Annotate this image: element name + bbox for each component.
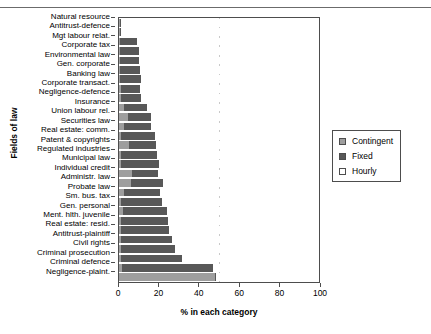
x-tick-mark [118,283,119,287]
x-tick-mark [198,283,199,287]
y-tick-mark [111,73,115,74]
y-tick-mark [111,149,115,150]
bar-row[interactable] [119,179,319,187]
y-tick-mark [111,139,115,140]
y-tick-mark [111,120,115,121]
bar-row[interactable] [119,160,319,168]
bar-segment-hourly [216,273,319,281]
bar-row[interactable] [119,104,319,112]
bar-segment-hourly [140,66,319,74]
y-tick-mark [111,26,115,27]
bar-segment-hourly [158,170,319,178]
bar-row[interactable] [119,255,319,263]
bar-row[interactable] [119,123,319,131]
bar-row[interactable] [119,198,319,206]
legend-item-hourly[interactable]: Hourly [339,166,393,176]
bar-row[interactable] [119,28,319,36]
bar-segment-hourly [139,47,319,55]
bar-segment-fixed [121,245,175,253]
y-tick-mark [111,54,115,55]
bar-row[interactable] [119,38,319,46]
bar-row[interactable] [119,57,319,65]
bar-segment-hourly [139,57,319,65]
bar-segment-hourly [137,38,319,46]
bar-segment-hourly [140,85,319,93]
bar-row[interactable] [119,189,319,197]
y-tick-label: Criminal defence [50,257,110,266]
clipped-header-text [150,0,431,6]
bar-segment-fixed [120,75,141,83]
y-tick-label: Regulated industries [37,144,110,153]
bar-segment-fixed [124,123,151,131]
chart-figure: Fields of law Natural resourceAntitrust-… [0,0,431,334]
y-tick-label: Real estate: comm. [41,125,110,134]
y-tick-mark [111,262,115,263]
bar-row[interactable] [119,94,319,102]
bar-segment-fixed [132,170,158,178]
y-tick-label: Union labour rel. [51,106,110,115]
bar-row[interactable] [119,75,319,83]
y-tick-label: Ment. hlth. juvenile [43,210,110,219]
bar-segment-hourly [151,123,319,131]
y-tick-mark [111,252,115,253]
bar-segment-fixed [122,264,213,272]
bar-segment-fixed [121,94,141,102]
bar-segment-hourly [155,132,319,140]
bar-row[interactable] [119,113,319,121]
y-tick-mark [111,64,115,65]
bar-row[interactable] [119,264,319,272]
legend-label-hourly: Hourly [352,166,377,176]
legend-item-contingent[interactable]: Contingent [339,136,393,146]
y-tick-mark [111,35,115,36]
y-tick-label: Sm. bus. tax [66,191,110,200]
bar-row[interactable] [119,85,319,93]
y-tick-mark [111,158,115,159]
y-tick-label: Corporate tax [62,40,110,49]
bar-row[interactable] [119,47,319,55]
y-tick-label: Mgt labour relat. [52,31,110,40]
y-tick-mark [111,215,115,216]
bar-segment-fixed [120,57,139,65]
bar-segment-fixed [131,179,163,187]
bar-rows [119,18,319,282]
bar-row[interactable] [119,245,319,253]
bar-segment-fixed [129,141,156,149]
bar-row[interactable] [119,236,319,244]
bar-row[interactable] [119,217,319,225]
y-tick-label: Probate law [68,182,110,191]
legend-item-fixed[interactable]: Fixed [339,151,393,161]
bar-segment-hourly [141,75,319,83]
bar-segment-fixed [120,47,139,55]
bar-segment-contingent [119,141,129,149]
bar-row[interactable] [119,207,319,215]
bar-segment-hourly [141,94,319,102]
x-tick-label: 60 [234,288,243,298]
y-tick-mark [111,45,115,46]
legend-swatch-contingent-icon [339,138,346,145]
bar-segment-contingent [119,273,215,281]
y-tick-label: Real estate: resid. [46,219,110,228]
y-tick-mark [111,224,115,225]
y-tick-label: Securities law [61,116,110,125]
bar-row[interactable] [119,66,319,74]
y-tick-mark [111,101,115,102]
bar-segment-hourly [168,217,319,225]
bar-segment-fixed [128,113,151,121]
bar-row[interactable] [119,141,319,149]
y-tick-mark [111,17,115,18]
bar-segment-contingent [119,113,128,121]
bar-segment-fixed [121,217,168,225]
bar-row[interactable] [119,19,319,27]
x-axis-title: % in each category [118,307,320,317]
y-tick-label: Insurance [75,97,110,106]
y-tick-label: Corporate transact. [42,78,110,87]
y-tick-mark [111,196,115,197]
bar-row[interactable] [119,226,319,234]
bar-segment-hourly [175,245,319,253]
bar-segment-hourly [121,19,319,27]
bar-row[interactable] [119,132,319,140]
bar-row[interactable] [119,151,319,159]
bar-row[interactable] [119,273,319,281]
bar-segment-hourly [167,207,319,215]
bar-row[interactable] [119,170,319,178]
